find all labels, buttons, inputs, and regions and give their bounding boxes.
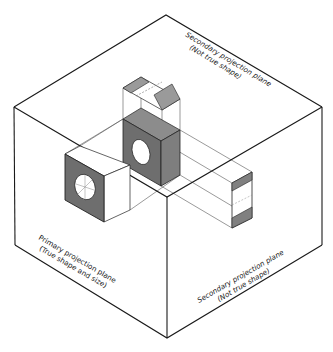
right-plane-label: Secondary projection plane (Not true sha… — [196, 247, 291, 312]
left-plane-label-line1: Primary projection plane — [37, 233, 118, 285]
center-object — [123, 108, 180, 186]
secondary-plane-projection — [232, 172, 252, 228]
top-plane-projection — [123, 77, 180, 110]
isometric-box-drawing: Secondary projection plane (Not true sha… — [0, 0, 333, 352]
primary-plane-projection — [65, 146, 130, 222]
projection-diagram: Secondary projection plane (Not true sha… — [0, 0, 333, 352]
top-plane-label-line1: Secondary projection plane — [184, 30, 274, 89]
right-plane-label-line1: Secondary projection plane — [196, 247, 286, 304]
top-plane-label: Secondary projection plane (Not true sha… — [179, 30, 273, 97]
left-plane-label: Primary projection plane (True shape and… — [33, 233, 119, 293]
